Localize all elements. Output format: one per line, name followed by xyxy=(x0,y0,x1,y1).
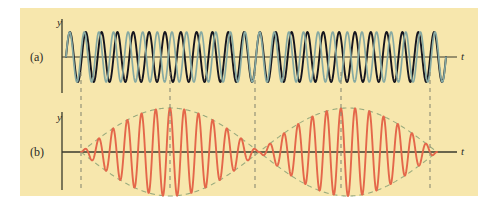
panel-label-b: (b) xyxy=(30,146,44,158)
waveform-canvas xyxy=(0,0,494,211)
panel-label-a: (a) xyxy=(30,51,43,63)
beats-wave-figure: y t y t (a) (b) xyxy=(0,0,494,211)
envelope-upper-dashed xyxy=(81,108,437,152)
envelope-lower-dashed xyxy=(81,152,437,196)
y-axis-label-panel-a: y xyxy=(57,17,62,28)
t-axis-label-panel-b: t xyxy=(461,146,464,157)
t-axis-label-panel-a: t xyxy=(461,51,464,62)
y-axis-label-panel-b: y xyxy=(57,112,62,123)
